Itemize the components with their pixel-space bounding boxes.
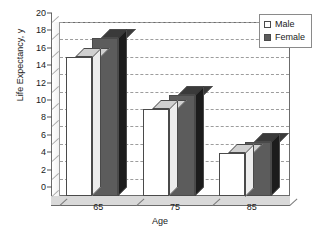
bar-side-face [245,144,254,197]
y-tick-mark [47,100,52,101]
y-tick-label: 14 [24,60,46,70]
y-tick-label: 18 [24,25,46,35]
bar-side-face [92,48,101,196]
bar-male-65 [66,57,92,196]
y-tick-mark [47,152,52,153]
dark-square-icon [264,34,271,41]
y-tick-label: 12 [24,78,46,88]
y-tick-label: 10 [24,95,46,105]
legend-label-male: Male [275,18,295,31]
y-tick-label: 20 [24,8,46,18]
y-tick-label: 6 [24,130,46,140]
x-axis-divider-tick [289,199,297,206]
bar-male-75 [143,109,169,196]
bar-chart: Life Expectancy, y 02468101214161820 657… [0,0,320,234]
y-tick-label: 8 [24,112,46,122]
x-axis-divider-tick [59,199,67,206]
bar-side-face [195,86,204,196]
bar-front-face [219,153,245,197]
x-tick-label: 75 [145,202,205,212]
y-tick-mark [47,13,52,14]
bar-front-face [143,109,169,196]
x-axis-title: Age [0,216,320,226]
x-axis-divider-tick [213,199,221,206]
bar-side-face [271,133,280,196]
y-tick-mark [47,30,52,31]
bar-side-face [118,29,127,196]
x-tick-label: 65 [68,202,128,212]
y-tick-label: 16 [24,43,46,53]
y-tick-mark [47,134,52,135]
x-axis-divider-tick [136,199,144,206]
y-tick-mark [47,82,52,83]
legend-item-male: Male [264,18,305,31]
y-tick-mark [47,117,52,118]
y-tick-mark [47,187,52,188]
bar-side-face [169,100,178,196]
legend: Male Female [259,14,312,48]
bar-male-85 [219,153,245,197]
bar-front-face [66,57,92,196]
y-tick-mark [47,65,52,66]
legend-label-female: Female [275,31,305,44]
y-tick-label: 0 [24,182,46,192]
y-tick-label: 4 [24,147,46,157]
gridline [60,22,289,23]
x-tick-label: 85 [222,202,282,212]
y-tick-mark [47,47,52,48]
white-square-icon [264,21,271,28]
legend-item-female: Female [264,31,305,44]
y-tick-label: 2 [24,165,46,175]
y-tick-mark [47,169,52,170]
